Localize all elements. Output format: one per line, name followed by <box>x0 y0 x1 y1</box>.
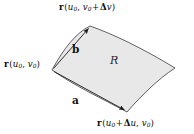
vector-a-label: a <box>72 95 79 106</box>
close-paren: ) <box>112 2 115 12</box>
delta-symbol: Δ <box>100 2 107 12</box>
corner-label-top: r(u0, v0+Δv) <box>59 3 115 13</box>
corner-label-bottom: r(u0+Δu, v0) <box>97 119 154 129</box>
parametric-surface-patch-figure: r(u0, v0+Δv) r(u0, v0) r(u0+Δu, v0) b a … <box>0 0 194 134</box>
close-paren: ) <box>37 59 40 69</box>
plus-operator: + <box>92 2 101 12</box>
region-label-R: R <box>110 55 118 66</box>
plus-operator: + <box>115 118 124 128</box>
surface-patch-region <box>52 26 175 112</box>
vector-b-label: b <box>72 44 79 55</box>
close-paren: ) <box>150 118 153 128</box>
param-v-subscript: 0 <box>88 6 92 12</box>
corner-label-left: r(u0, v0) <box>4 60 40 70</box>
